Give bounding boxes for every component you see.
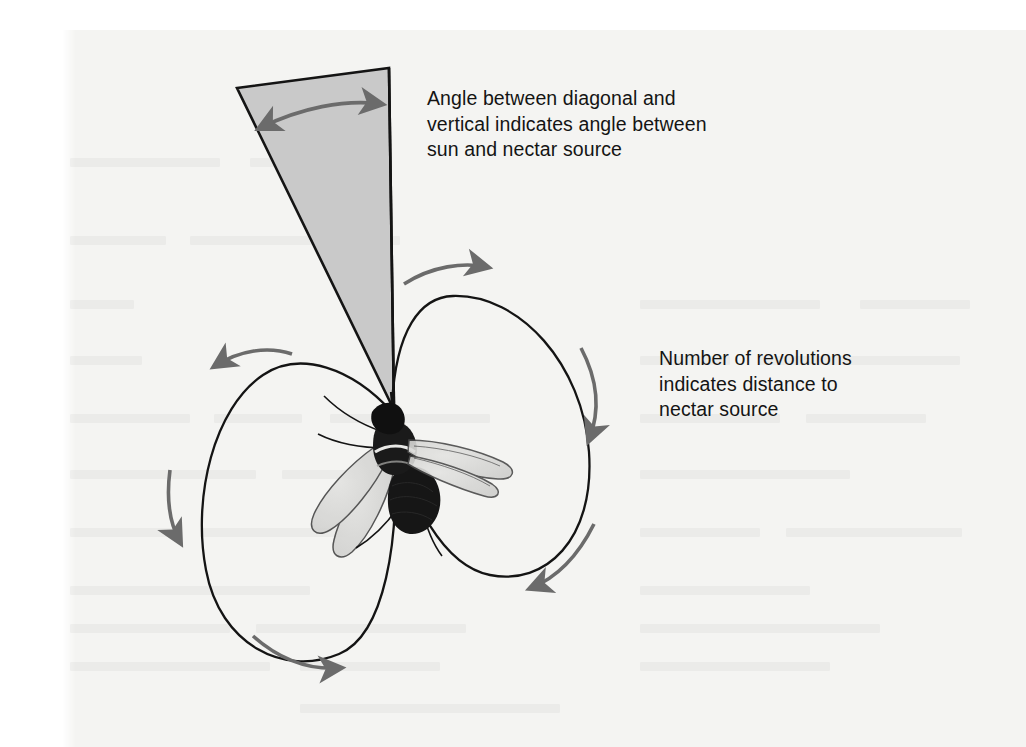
right-loop-top-arrow — [404, 265, 487, 284]
caption-angle-between-diagonal-and-vertical: Angle between diagonal and vertical indi… — [427, 86, 707, 163]
right-loop-side-arrow — [581, 348, 596, 440]
wedge-shape — [237, 68, 394, 410]
right-loop-bottom-arrow — [531, 524, 594, 588]
left-loop-side-arrow — [168, 470, 180, 542]
sun-direction-wedge — [237, 68, 394, 410]
right-dance-loop — [392, 296, 589, 577]
honeybee-illustration — [312, 396, 513, 557]
figure-page: Angle between diagonal and vertical indi… — [0, 0, 1026, 747]
left-loop-top-arrow — [215, 350, 292, 366]
caption-number-of-revolutions: Number of revolutions indicates distance… — [659, 346, 852, 423]
